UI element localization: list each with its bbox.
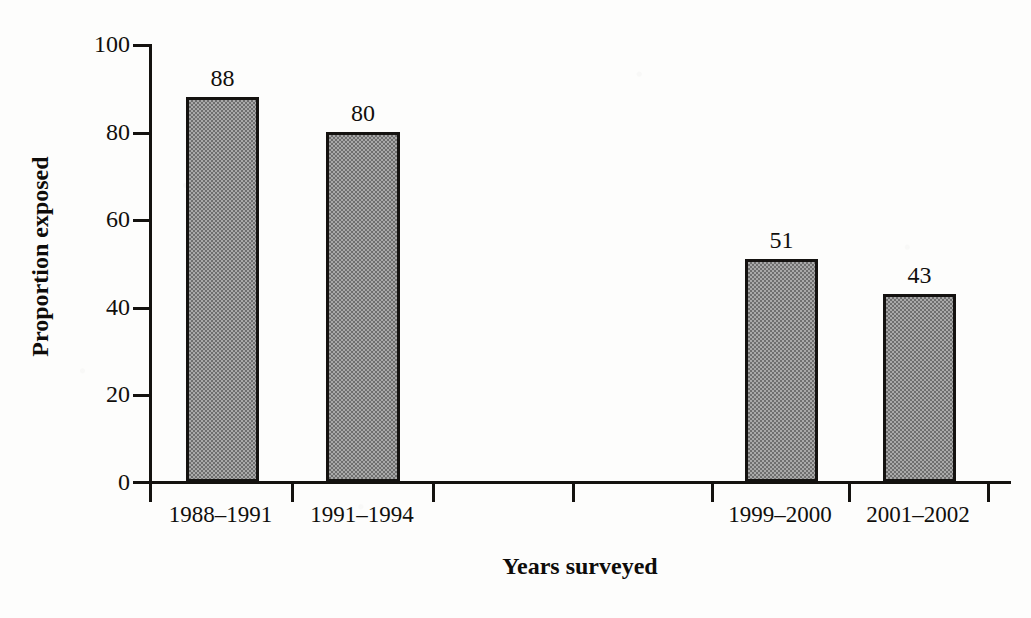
x-axis-tick-4 [711, 484, 714, 502]
x-axis-tick-1 [291, 484, 294, 502]
y-axis-tick-label-0: 0 [84, 470, 130, 494]
y-axis-tick-label-40: 40 [84, 295, 130, 319]
bar-value-label-2001-2002: 43 [883, 263, 956, 287]
bar-value-label-1991-1994: 80 [326, 101, 400, 125]
y-axis-tick-label-80: 80 [84, 120, 130, 144]
y-axis-line [149, 44, 152, 484]
bar-1999-2000 [745, 259, 818, 482]
x-axis-tick-6 [987, 484, 990, 502]
x-axis-tick-3 [572, 484, 575, 502]
y-axis-tick-80 [133, 132, 150, 135]
x-axis-category-label-5: 2001–2002 [848, 503, 988, 527]
y-axis-tick-label-100: 100 [84, 32, 130, 56]
x-axis-tick-5 [848, 484, 851, 502]
bar-value-label-1999-2000: 51 [745, 228, 818, 252]
y-axis-tick-100 [133, 44, 150, 47]
bar-1988-1991 [186, 97, 259, 482]
y-axis-tick-60 [133, 219, 150, 222]
y-axis-tick-label-20: 20 [84, 382, 130, 406]
x-axis-line [149, 481, 1011, 484]
bar-value-label-1988-1991: 88 [186, 66, 259, 90]
bar-1991-1994 [326, 132, 400, 482]
x-axis-category-label-1: 1991–1994 [291, 503, 433, 527]
bar-chart: 100 80 60 40 20 0 1988–1991 1991–1994 19… [0, 0, 1031, 618]
x-axis-title: Years surveyed [149, 553, 1011, 580]
x-axis-tick-2 [432, 484, 435, 502]
y-axis-tick-0 [133, 481, 150, 484]
y-axis-tick-20 [133, 394, 150, 397]
y-axis-tick-label-60: 60 [84, 207, 130, 231]
bar-2001-2002 [883, 294, 956, 482]
y-axis-tick-40 [133, 307, 150, 310]
x-axis-tick-0 [149, 484, 152, 502]
x-axis-category-label-0: 1988–1991 [149, 503, 292, 527]
x-axis-category-label-4: 1999–2000 [711, 503, 849, 527]
y-axis-title: Proportion exposed [27, 112, 54, 402]
